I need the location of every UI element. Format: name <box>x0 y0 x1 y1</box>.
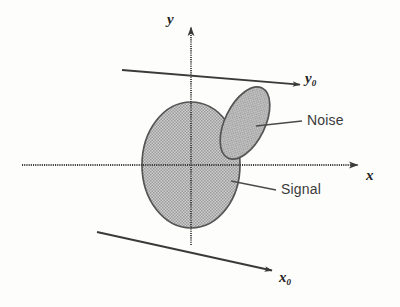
x0-axis-line <box>97 232 272 271</box>
signal-noise-diagram: y x y0 x0 Noise Signal <box>0 0 400 307</box>
y0-axis-label-subscript: 0 <box>312 78 317 88</box>
x0-axis-label: x0 <box>279 270 291 287</box>
y0-axis-label-base: y <box>305 70 312 86</box>
y0-axis-label: y0 <box>305 71 316 88</box>
x-axis-label: x <box>366 168 374 183</box>
y0-axis-line <box>122 70 300 85</box>
x0-axis-label-base: x <box>279 269 287 285</box>
x0-axis-label-subscript: 0 <box>287 277 292 287</box>
diagram-canvas <box>0 0 400 307</box>
y-axis-label: y <box>167 12 174 27</box>
noise-annotation-label: Noise <box>307 113 344 127</box>
signal-annotation-label: Signal <box>281 182 321 196</box>
